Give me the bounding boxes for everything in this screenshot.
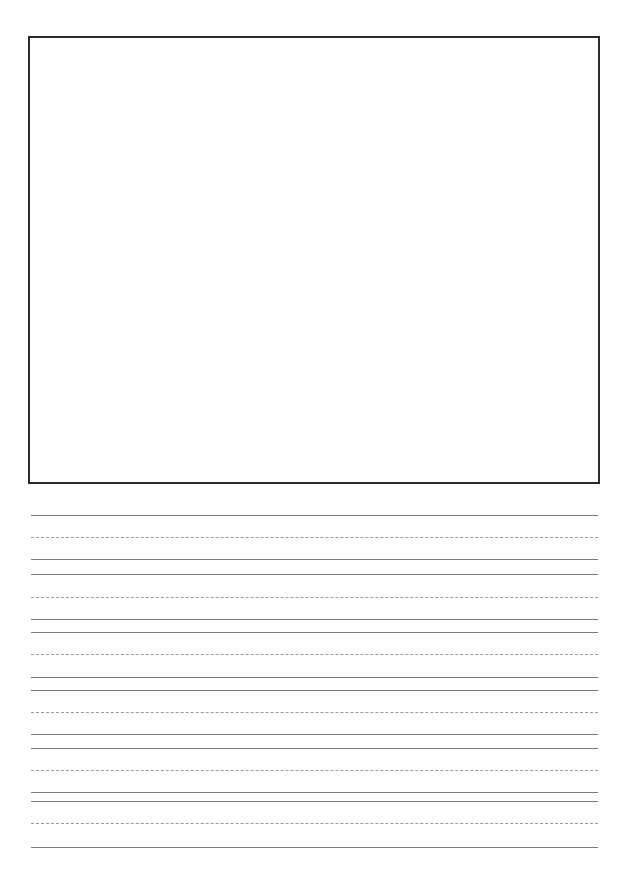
writing-line-top xyxy=(31,632,598,633)
writing-line-mid xyxy=(31,654,598,655)
writing-line-top xyxy=(31,515,598,516)
writing-line-base xyxy=(31,792,598,793)
writing-line-mid xyxy=(31,712,598,713)
writing-line-mid xyxy=(31,537,598,538)
writing-line-top xyxy=(31,690,598,691)
writing-line-base xyxy=(31,677,598,678)
writing-line-base xyxy=(31,734,598,735)
writing-line-base xyxy=(31,619,598,620)
writing-line-top xyxy=(31,748,598,749)
writing-line-mid xyxy=(31,823,598,824)
writing-line-mid xyxy=(31,770,598,771)
drawing-box xyxy=(28,36,600,484)
writing-line-top xyxy=(31,801,598,802)
writing-line-top xyxy=(31,574,598,575)
writing-line-base xyxy=(31,847,598,848)
writing-line-mid xyxy=(31,597,598,598)
writing-line-base xyxy=(31,559,598,560)
